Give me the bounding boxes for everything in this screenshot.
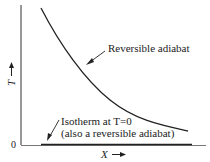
isotherm-label-text: Isotherm at T=0 bbox=[61, 115, 132, 127]
x-axis-letter: X bbox=[100, 148, 109, 160]
y-axis-label: T bbox=[5, 62, 17, 86]
isotherm-pointer-arrow bbox=[47, 120, 59, 141]
isotherm-label-line2: (also a reversible adiabat) bbox=[61, 127, 175, 140]
reversible-adiabat-curve bbox=[41, 8, 188, 131]
x-axis-label: X bbox=[100, 148, 126, 160]
adiabat-label: Reversible adiabat bbox=[108, 42, 190, 54]
y-axis-letter: T bbox=[5, 79, 17, 86]
diagram-canvas: Reversible adiabat Isotherm at T=0 (also… bbox=[0, 0, 210, 162]
adiabat-pointer-arrow bbox=[86, 51, 105, 65]
isotherm-label-line1: Isotherm at T=0 bbox=[61, 115, 132, 127]
origin-label: 0 bbox=[11, 139, 16, 150]
